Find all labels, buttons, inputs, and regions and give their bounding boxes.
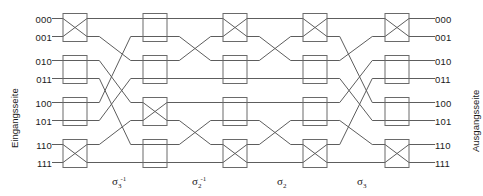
sigma-subscript-3: 3 (363, 182, 367, 190)
switch-box-c2-s2[interactable] (143, 56, 167, 84)
perm-sigma3-cross-1 (327, 37, 385, 103)
sigma-superscript-0: -1 (120, 175, 126, 183)
switch-box-c3-s3[interactable] (223, 98, 247, 126)
output-label-6: 110 (435, 141, 463, 151)
input-label-3: 011 (26, 75, 52, 85)
perm-sigma3-inverse-cross-2 (87, 61, 143, 103)
input-label-6: 110 (26, 141, 52, 151)
switch-box-c5-s2[interactable] (385, 56, 409, 84)
switch-box-c2-s1[interactable] (143, 14, 167, 42)
perm-sigma3-cross-5 (327, 121, 385, 145)
switch-box-c1-s2[interactable] (63, 56, 87, 84)
network-diagram-svg (0, 0, 483, 196)
perm-sigma3-inverse-cross-4 (87, 37, 143, 103)
perm-sigma3-inverse-cross-5 (87, 79, 143, 121)
output-label-0: 000 (435, 15, 463, 25)
perm-sigma3-cross-4 (327, 61, 385, 103)
switch-box-c2-s4[interactable] (143, 140, 167, 168)
input-label-1: 001 (26, 33, 52, 43)
perm-sigma3-inverse-cross-1 (87, 37, 143, 61)
stage-label-sigma3-inverse: σ3-1 (112, 176, 127, 187)
input-label-0: 000 (26, 15, 52, 25)
perm-sigma2-inverse-cross-6 (167, 121, 223, 145)
sigma-superscript-1: -1 (200, 175, 206, 183)
switch-box-c4-s2[interactable] (303, 56, 327, 84)
perm-sigma3-cross-3 (327, 79, 385, 121)
output-side-caption: Ausgangsseite (471, 90, 481, 152)
input-label-5: 101 (26, 117, 52, 127)
output-label-1: 001 (435, 33, 463, 43)
stage-label-sigma2-inverse: σ2-1 (192, 176, 207, 187)
perm-sigma2-cross-2 (247, 37, 303, 61)
input-label-7: 111 (26, 159, 52, 169)
input-label-2: 010 (26, 57, 52, 67)
output-label-3: 011 (435, 75, 463, 85)
switch-box-layer (63, 14, 409, 168)
switch-box-c5-s3[interactable] (385, 98, 409, 126)
stage-label-sigma2: σ2 (277, 176, 286, 187)
output-label-2: 010 (435, 57, 463, 67)
output-label-5: 101 (435, 117, 463, 127)
wire-layer (52, 19, 435, 163)
sigma-subscript-2: 2 (283, 182, 287, 190)
output-label-7: 111 (435, 159, 463, 169)
input-label-4: 100 (26, 99, 52, 109)
perm-sigma2-cross-6 (247, 121, 303, 145)
perm-sigma3-inverse-cross-3 (87, 79, 143, 145)
perm-sigma3-cross-2 (327, 37, 385, 61)
input-side-caption: Eingangsseite (10, 88, 20, 148)
perm-sigma3-cross-6 (327, 79, 385, 145)
stage-label-sigma3: σ3 (357, 176, 366, 187)
switch-box-c3-s2[interactable] (223, 56, 247, 84)
perm-sigma2-inverse-cross-2 (167, 37, 223, 61)
switch-box-c1-s3[interactable] (63, 98, 87, 126)
perm-sigma3-inverse-cross-6 (87, 121, 143, 145)
output-label-4: 100 (435, 99, 463, 109)
figure-canvas: 000 001 010 011 100 101 110 111 000 001 … (0, 0, 483, 196)
switch-box-c4-s3[interactable] (303, 98, 327, 126)
